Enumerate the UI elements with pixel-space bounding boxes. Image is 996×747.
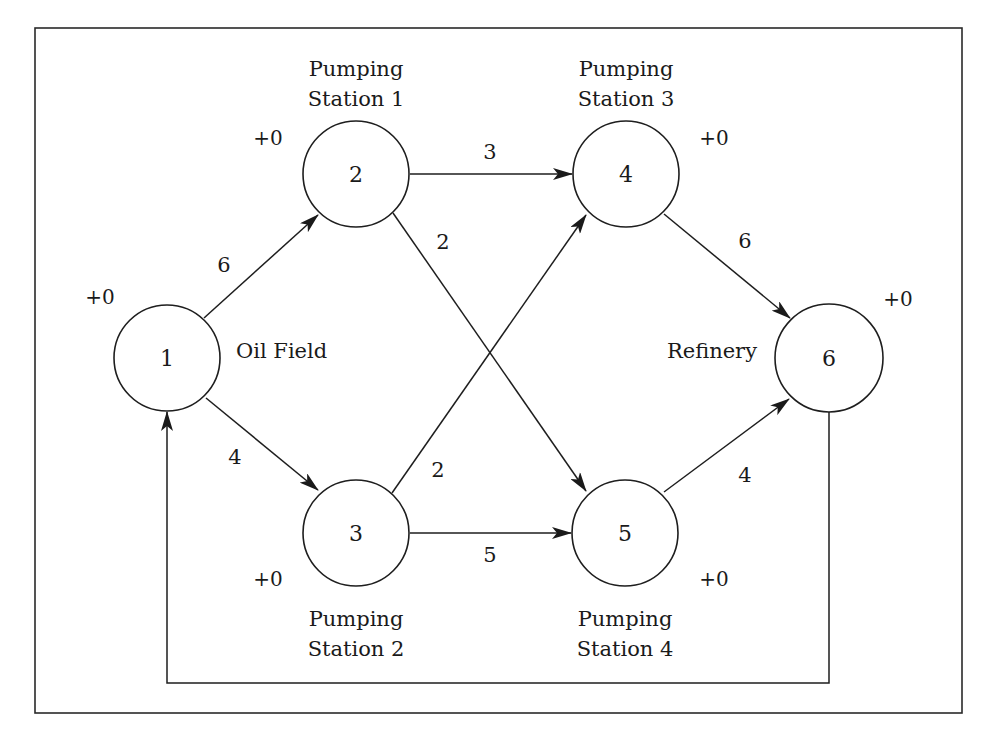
node-2-name-line-1: Pumping [309,57,404,81]
node-5-label: 5 [618,521,632,546]
edge-5-to-6 [664,399,789,492]
node-4-name-line-1: Pumping [579,57,674,81]
node-3-name-line-1: Pumping [309,607,404,631]
node-1-label: 1 [160,346,174,371]
node-2-name-line-2: Station 1 [308,87,405,111]
node-3-label: 3 [349,521,363,546]
node-3-name-line-2: Station 2 [308,637,405,661]
node-6-name: Refinery [667,339,757,363]
node-5-name-line-2: Station 4 [577,637,674,661]
node-2-capacity: +0 [253,126,282,150]
node-4-label: 4 [619,162,633,187]
oil-pipeline-network-diagram: 6 4 3 2 2 5 6 4 1 Oil Field +0 2 Pumping… [0,0,996,747]
edge-4-to-6 [664,214,790,318]
edge-weight-4-6: 6 [738,229,751,253]
node-1: 1 [114,305,220,411]
edge-weight-1-3: 4 [228,445,241,469]
edge-weight-2-5: 2 [436,230,449,254]
node-1-capacity: +0 [85,285,114,309]
node-2: 2 [303,121,409,227]
edge-weight-1-2: 6 [217,253,230,277]
node-4-capacity: +0 [699,126,728,150]
edge-weight-3-5: 5 [483,543,496,567]
edge-6-to-1-return [167,412,829,683]
node-3-capacity: +0 [253,567,282,591]
node-6-label: 6 [822,346,836,371]
node-6-capacity: +0 [883,287,912,311]
node-6: 6 [775,304,883,412]
edge-weight-3-4: 2 [431,458,444,482]
node-4-name-line-2: Station 3 [578,87,675,111]
node-2-label: 2 [349,162,363,187]
node-5-capacity: +0 [699,567,728,591]
edge-1-to-3 [206,398,318,490]
node-1-name: Oil Field [236,339,327,363]
node-4: 4 [573,121,679,227]
edge-weight-5-6: 4 [738,463,751,487]
node-5-name-line-1: Pumping [578,607,673,631]
node-5: 5 [572,480,678,586]
edge-3-to-4 [392,215,586,493]
node-3: 3 [303,480,409,586]
edge-weight-2-4: 3 [483,140,496,164]
